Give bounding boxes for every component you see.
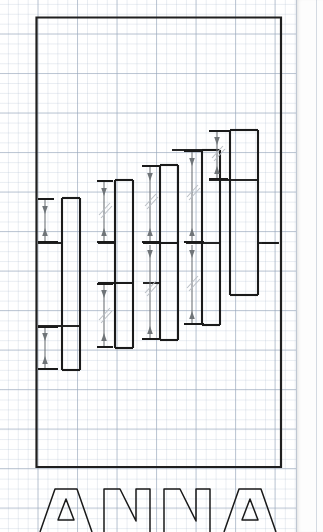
title-letter-A-2	[224, 489, 276, 532]
box-2	[98, 180, 133, 348]
title-letter-N-2	[164, 489, 210, 532]
box-1	[38, 198, 80, 370]
dimension-2-upper	[97, 181, 115, 242]
dimension-3-upper	[142, 166, 160, 242]
title-letter-N-1	[104, 489, 150, 532]
dimension-2-lower	[97, 284, 113, 347]
page-margin-rule	[316, 0, 317, 532]
title-letter-A-1	[40, 489, 92, 532]
dimension-1-upper	[38, 199, 58, 242]
box-4	[172, 150, 220, 325]
dimension-3-lower	[142, 245, 160, 339]
hand-drawn-diagram	[0, 0, 323, 532]
dimension-1-lower	[38, 327, 58, 369]
graph-paper-page: ANNA A N N A bar hand-drawn box/candlest…	[0, 0, 323, 532]
page-binding-edge	[296, 0, 323, 532]
